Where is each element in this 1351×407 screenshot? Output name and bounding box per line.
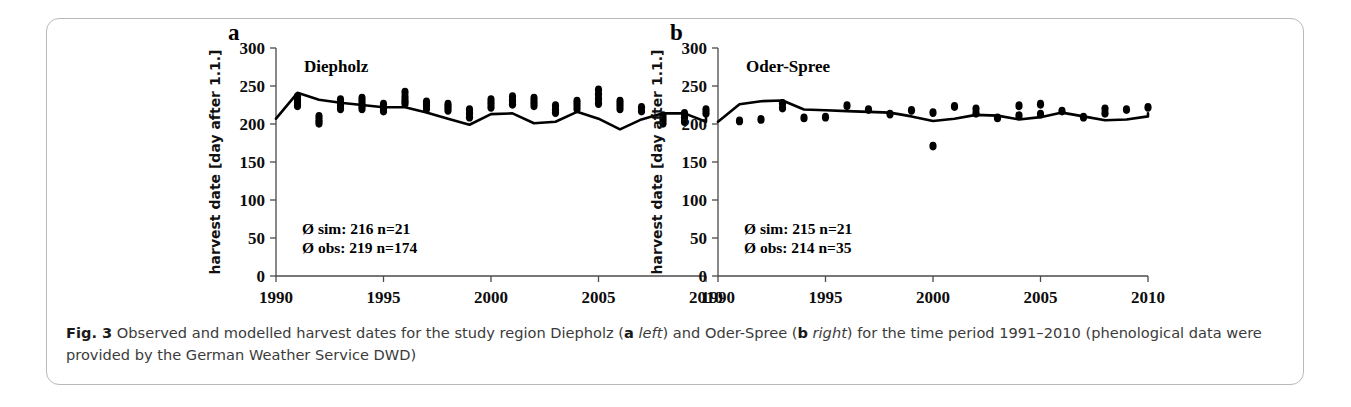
observed-point-b <box>1037 100 1044 109</box>
observed-point-b <box>736 117 743 126</box>
annotation-a-1: Ø obs: 219 n=174 <box>302 239 417 256</box>
observed-point-a <box>552 108 559 117</box>
observed-point-b <box>972 109 979 118</box>
observed-point-a <box>358 104 365 113</box>
y-tick-label-a-0: 0 <box>257 267 266 286</box>
observed-point-b <box>1015 101 1022 110</box>
caption-label-b: b <box>797 324 807 341</box>
observed-point-b <box>1058 107 1065 116</box>
observed-point-b <box>1080 113 1087 122</box>
observed-point-a <box>573 104 580 113</box>
observed-point-b <box>994 114 1001 123</box>
observed-point-a <box>444 106 451 115</box>
observed-point-b <box>1015 111 1022 120</box>
observed-point-a <box>315 119 322 128</box>
observed-point-b <box>1037 110 1044 119</box>
x-tick-label-b-2000: 2000 <box>916 288 950 307</box>
chart-svg-b: bharvest date [day after 1.1.]0501001502… <box>656 18 1156 318</box>
caption-part-1: Observed and modelled harvest dates for … <box>117 324 624 341</box>
caption-label-a: a <box>624 324 634 341</box>
observed-point-b <box>865 105 872 114</box>
annotation-b-0: Ø sim: 215 n=21 <box>744 220 852 237</box>
y-axis-label-b: harvest date [day after 1.1.] <box>649 50 665 275</box>
panel-title-a: Diepholz <box>304 57 369 76</box>
caption-italic-left: left <box>639 324 663 341</box>
observed-point-b <box>779 104 786 113</box>
observed-point-b <box>757 115 764 124</box>
y-tick-label-a-300: 300 <box>240 39 266 58</box>
y-tick-label-b-150: 150 <box>682 153 708 172</box>
x-tick-label-a-2000: 2000 <box>474 288 508 307</box>
observed-point-b <box>908 106 915 115</box>
panel-title-b: Oder-Spree <box>746 57 830 76</box>
y-tick-label-a-150: 150 <box>240 153 266 172</box>
observed-point-a <box>595 99 602 108</box>
observed-point-a <box>380 107 387 116</box>
y-tick-label-b-250: 250 <box>682 77 708 96</box>
x-tick-label-a-2005: 2005 <box>582 288 616 307</box>
observed-point-a <box>616 104 623 113</box>
chart-svg-a: aharvest date [day after 1.1.]0501001502… <box>214 18 714 318</box>
y-tick-label-a-100: 100 <box>240 191 266 210</box>
figure-number: Fig. 3 <box>66 324 112 341</box>
y-tick-label-b-300: 300 <box>682 39 708 58</box>
observed-point-a <box>466 113 473 122</box>
observed-point-b <box>886 110 893 119</box>
figure-caption: Fig. 3 Observed and modelled harvest dat… <box>66 322 1282 366</box>
observed-point-b <box>1101 109 1108 118</box>
observed-point-b <box>951 102 958 111</box>
observed-point-b <box>929 142 936 151</box>
observed-point-b <box>800 114 807 123</box>
x-tick-label-b-1995: 1995 <box>809 288 843 307</box>
observed-point-b <box>1144 103 1151 112</box>
y-tick-label-a-250: 250 <box>240 77 266 96</box>
observed-point-a <box>487 103 494 112</box>
y-tick-label-a-50: 50 <box>248 229 265 248</box>
observed-point-b <box>822 113 829 122</box>
x-tick-label-a-1990: 1990 <box>259 288 293 307</box>
y-tick-label-b-50: 50 <box>690 229 707 248</box>
observed-point-a <box>530 101 537 110</box>
annotation-b-1: Ø obs: 214 n=35 <box>744 239 852 256</box>
observed-point-b <box>1123 105 1130 114</box>
x-tick-label-b-2010: 2010 <box>1131 288 1165 307</box>
figure-root: aharvest date [day after 1.1.]0501001502… <box>0 0 1351 407</box>
x-tick-label-a-1995: 1995 <box>367 288 401 307</box>
y-tick-label-a-200: 200 <box>240 115 266 134</box>
chart-panel-a: aharvest date [day after 1.1.]0501001502… <box>214 18 714 318</box>
observed-point-a <box>401 99 408 108</box>
panels-container: aharvest date [day after 1.1.]0501001502… <box>46 18 1304 318</box>
y-axis-label-a: harvest date [day after 1.1.] <box>207 50 223 275</box>
observed-point-a <box>294 101 301 110</box>
observed-point-b <box>929 108 936 117</box>
y-tick-label-b-100: 100 <box>682 191 708 210</box>
x-tick-label-b-1990: 1990 <box>701 288 735 307</box>
observed-point-b <box>843 101 850 110</box>
y-tick-label-b-200: 200 <box>682 115 708 134</box>
panel-letter-a: a <box>228 20 240 45</box>
observed-point-a <box>509 100 516 109</box>
observed-point-a <box>638 107 645 116</box>
observed-point-a <box>337 104 344 113</box>
observed-point-a <box>423 104 430 113</box>
caption-part-2: ) and Oder-Spree ( <box>662 324 797 341</box>
chart-panel-b: bharvest date [day after 1.1.]0501001502… <box>656 18 1156 318</box>
caption-italic-right: right <box>813 324 847 341</box>
annotation-a-0: Ø sim: 216 n=21 <box>302 220 410 237</box>
y-tick-label-b-0: 0 <box>699 267 708 286</box>
x-tick-label-b-2005: 2005 <box>1024 288 1058 307</box>
